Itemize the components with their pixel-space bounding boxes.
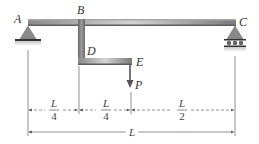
dimension-seg2: L 4 bbox=[80, 97, 130, 122]
beam-diagram: A B C D E P L 4 L 4 L 2 L bbox=[0, 0, 259, 144]
label-p: P bbox=[134, 78, 143, 92]
dimension-seg1: L 4 bbox=[29, 97, 78, 122]
seg2-numerator: L bbox=[102, 97, 109, 109]
pin-support-a bbox=[15, 26, 41, 46]
label-d: D bbox=[86, 44, 96, 58]
seg1-denominator: 4 bbox=[51, 110, 57, 122]
dimension-seg3: L 2 bbox=[132, 97, 234, 122]
label-a: A bbox=[13, 12, 22, 26]
seg1-numerator: L bbox=[50, 97, 57, 109]
seg2-denominator: 4 bbox=[103, 110, 109, 122]
label-c: C bbox=[239, 15, 248, 29]
roller-support-c bbox=[224, 26, 246, 52]
horizontal-member-de bbox=[78, 58, 132, 65]
seg3-numerator: L bbox=[178, 97, 185, 109]
seg3-denominator: 2 bbox=[179, 110, 185, 122]
main-beam bbox=[28, 19, 236, 26]
dimension-total: L bbox=[29, 126, 234, 138]
label-b: B bbox=[77, 3, 85, 17]
label-e: E bbox=[135, 55, 144, 69]
load-arrow-p bbox=[127, 65, 134, 88]
total-length-label: L bbox=[128, 126, 135, 138]
